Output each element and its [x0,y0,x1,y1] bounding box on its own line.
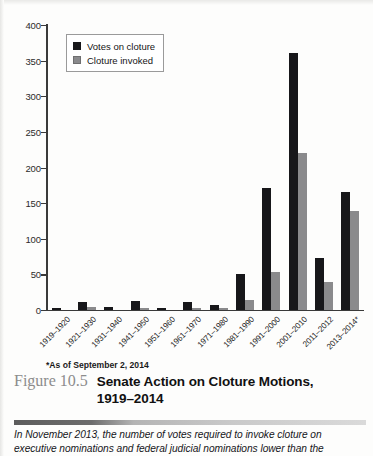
figure-description: In November 2013, the number of votes re… [14,428,364,456]
chart-footnote: *As of September 2, 2014 [46,360,149,370]
figure-title: Senate Action on Cloture Motions, 1919–2… [97,373,314,408]
figure-description-line1: In November 2013, the number of votes re… [14,429,322,440]
y-tick-label: 300 [25,91,41,102]
y-tick-label: 250 [25,126,41,137]
figure-description-line2: executive nominations and federal judici… [14,443,324,454]
bar-cloture-invoked [245,300,254,310]
bar-cloture-invoked [350,211,359,309]
bar-cloture-invoked [298,153,307,310]
y-tick-label: 100 [25,233,41,244]
legend-item-votes-on-cloture: Votes on cloture [73,39,155,53]
bar-cloture-invoked [192,308,201,309]
bar-votes-on-cloture [289,53,298,310]
legend-label-invoked: Cloture invoked [87,55,153,66]
bar-votes-on-cloture [78,302,87,309]
y-tick-mark [41,25,46,26]
bar-group [311,25,337,310]
y-tick-mark [41,132,46,133]
legend-label-votes: Votes on cloture [87,41,155,52]
bar-votes-on-cloture [210,305,219,310]
legend-swatch-icon-invoked [73,56,81,64]
y-tick-label: 200 [25,162,41,173]
y-tick-mark [41,168,46,169]
bar-votes-on-cloture [262,188,271,309]
figure-number: Figure 10.5 [14,372,88,390]
bar-votes-on-cloture [131,301,140,310]
bar-group [337,25,363,310]
y-tick-mark [41,61,46,62]
bar-cloture-invoked [324,282,333,310]
y-tick-mark [41,310,46,311]
figure-caption: Figure 10.5 Senate Action on Cloture Mot… [14,372,366,408]
y-tick-mark [41,203,46,204]
y-tick-mark [41,239,46,240]
y-tick-label: 50 [31,269,41,280]
bar-votes-on-cloture [52,308,61,309]
legend-swatch-icon-votes [73,42,81,50]
bar-cloture-invoked [271,272,280,309]
chart-legend: Votes on cloture Cloture invoked [66,34,164,72]
bar-votes-on-cloture [157,308,166,309]
bar-votes-on-cloture [183,302,192,310]
caption-divider-rule [14,420,366,425]
legend-item-cloture-invoked: Cloture invoked [73,53,155,67]
y-tick-label: 350 [25,55,41,66]
bar-group [205,25,231,310]
bar-cloture-invoked [140,308,149,309]
bar-group [284,25,310,310]
figure-title-line2: 1919–2014 [97,390,314,407]
bar-votes-on-cloture [315,258,324,309]
bar-group [232,25,258,310]
bar-cloture-invoked [219,308,228,309]
figure-title-line1: Senate Action on Cloture Motions, [97,374,314,389]
x-axis-labels: 1919–19201921–19301931–19401941–19501951… [48,313,364,359]
y-tick-label: 150 [25,198,41,209]
y-tick-mark [41,96,46,97]
figure-page: 050100150200250300350400 1919–19201921–1… [0,0,373,456]
bar-chart: 050100150200250300350400 1919–19201921–1… [0,8,373,348]
y-tick-label: 0 [36,305,41,316]
bar-group [179,25,205,310]
y-tick-mark [41,274,46,275]
bar-cloture-invoked [87,307,96,309]
bar-votes-on-cloture [341,192,350,310]
page-edge-top [0,0,373,5]
bar-votes-on-cloture [236,274,245,310]
bar-votes-on-cloture [104,307,113,309]
bar-group [258,25,284,310]
x-label-cell: 2013–2014* [337,313,363,359]
y-tick-label: 400 [25,20,41,31]
x-axis [46,310,364,312]
